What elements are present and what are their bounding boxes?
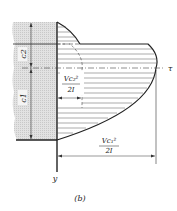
- tau-label: τ: [168, 64, 173, 73]
- c2-label: c2: [19, 49, 28, 59]
- outer-denominator: 2I: [104, 147, 112, 155]
- shear-stress-diagram: c2 c1 τ Vc₂² 2I Vc₁: [0, 0, 177, 211]
- y-axis-label: y: [52, 174, 58, 183]
- beam-cross-section: [12, 22, 57, 140]
- inner-numerator: Vc₂²: [64, 75, 79, 83]
- outer-numerator: Vc₁²: [102, 137, 117, 145]
- c1-label: c1: [19, 93, 28, 103]
- inner-denominator: 2I: [66, 86, 74, 94]
- figure-caption: (b): [74, 194, 85, 203]
